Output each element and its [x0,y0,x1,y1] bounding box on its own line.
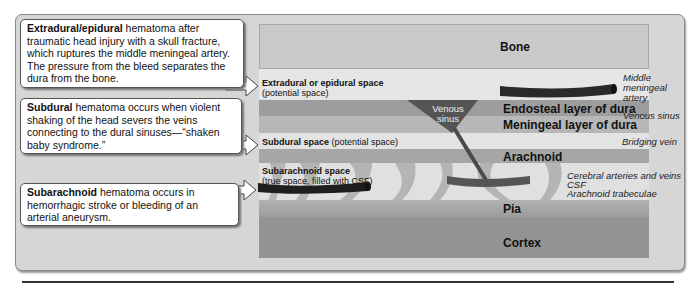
middle-meningeal-artery-icon [500,84,614,98]
meningeal-label: Meningeal layer of dura [503,118,637,132]
epidural-space-label: Extradural or epidural space(potential s… [262,78,384,98]
venous-sinus-inner-label: Venous sinus [428,104,468,124]
venous-sinus-label: Venous sinus [623,111,680,121]
bone-label: Bone [500,40,530,54]
cortex-label: Cortex [503,236,541,250]
pia-label: Pia [503,202,521,216]
bridging-vein-label: Bridging vein [622,137,677,147]
subdural-hematoma-callout: Subdural hematoma occurs when violent sh… [20,98,242,154]
endosteal-label: Endosteal layer of dura [503,102,636,116]
subdural-space-label: Subdural space (potential space) [262,137,398,147]
bridging-vein-icon [454,128,486,180]
epidural-hematoma-callout: Extradural/epidural hematoma after traum… [20,19,244,88]
subarachnoid-space-label: Subarachnoid space(true space, filled wi… [262,166,373,186]
arachnoid-trabeculae-label: Arachnoid trabeculae [567,189,657,199]
arachnoid-label: Arachnoid [503,150,562,164]
middle-meningeal-artery-label: Middle meningeal artery [623,73,669,103]
subarachnoid-hematoma-callout: Subarachnoid hematoma occurs in hemorrha… [20,183,239,226]
bottom-rule [22,281,674,283]
